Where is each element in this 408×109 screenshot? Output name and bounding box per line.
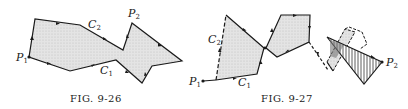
- label-c1: C1: [238, 76, 251, 90]
- label-p1: P1: [188, 75, 201, 89]
- label-p2: P2: [127, 7, 140, 21]
- point-p2: [380, 60, 383, 63]
- label-p2: P2: [385, 56, 398, 70]
- caption-fig-9-27: FIG. 9-27: [261, 93, 313, 104]
- label-c2: C2: [208, 33, 221, 47]
- point-p1: [201, 79, 204, 82]
- region-left: [216, 15, 264, 80]
- label-p1: P1: [15, 51, 28, 65]
- figure-9-26: P1 P2 C2 C1 FIG. 9-26: [15, 7, 182, 104]
- figure-9-27: P1 P2 C2 C1 FIG. 9-27: [188, 14, 398, 104]
- label-c2: C2: [88, 18, 101, 32]
- caption-fig-9-26: FIG. 9-26: [70, 93, 122, 104]
- label-c1: C1: [100, 64, 113, 78]
- point-p1: [27, 55, 30, 58]
- figures-canvas: P1 P2 C2 C1 FIG. 9-26: [0, 0, 408, 109]
